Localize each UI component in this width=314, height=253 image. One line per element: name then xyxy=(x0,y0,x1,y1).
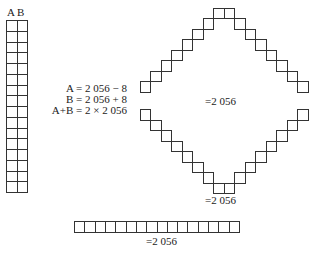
column-header-b: B xyxy=(17,7,24,18)
diamond-cell xyxy=(297,109,309,121)
diamond-cell xyxy=(150,71,162,83)
diamond-cell xyxy=(192,29,204,41)
diamond-cell xyxy=(203,18,215,30)
column-header-a: A xyxy=(7,7,15,18)
diamond-center-label: =2 056 xyxy=(205,96,236,107)
diamond-cell xyxy=(140,81,152,93)
diamond-cell xyxy=(224,183,236,195)
bar-cell xyxy=(229,221,240,233)
diamond-bottom-label: =2 056 xyxy=(205,195,236,206)
diamond-cell xyxy=(245,162,257,174)
diamond-cell xyxy=(297,81,309,93)
diamond-cell xyxy=(161,60,173,72)
equation-sum: A+B = 2 × 2 056 xyxy=(52,105,127,116)
grid-cell xyxy=(17,181,29,193)
diamond-cell xyxy=(266,141,278,153)
bar-label: =2 056 xyxy=(146,236,177,247)
diamond-cell xyxy=(234,172,246,184)
diamond-cell xyxy=(182,39,194,51)
diamond-cell xyxy=(255,151,267,163)
diamond-cell xyxy=(171,50,183,62)
diamond-cell xyxy=(287,120,299,132)
diamond-cell xyxy=(276,130,288,142)
